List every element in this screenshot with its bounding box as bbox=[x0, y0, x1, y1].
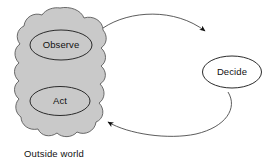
node-decide[interactable]: Decide bbox=[203, 56, 262, 88]
outside-world-cloud bbox=[15, 7, 107, 136]
node-act[interactable]: Act bbox=[30, 87, 90, 116]
outside-world-caption: Outside world bbox=[24, 148, 84, 159]
observe-label: Observe bbox=[43, 39, 80, 50]
arrow-observe-to-decide bbox=[103, 14, 205, 31]
diagram-svg: Observe Act Decide Outside world bbox=[0, 0, 273, 166]
arrow-decide-to-act bbox=[108, 92, 231, 136]
node-observe[interactable]: Observe bbox=[30, 30, 92, 60]
decide-label: Decide bbox=[217, 66, 247, 77]
cloud-shape bbox=[15, 7, 107, 136]
act-label: Act bbox=[53, 95, 67, 106]
diagram-canvas: Observe Act Decide Outside world bbox=[0, 0, 273, 166]
